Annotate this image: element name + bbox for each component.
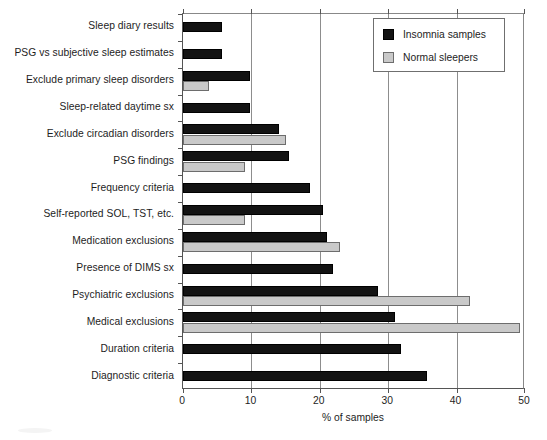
category-tick xyxy=(178,336,183,337)
category-label: Sleep-related daytime sx xyxy=(59,101,174,112)
bar-insomnia-samples xyxy=(183,232,327,242)
category-label: Diagnostic criteria xyxy=(91,370,174,381)
axis-tick xyxy=(524,388,525,393)
bar-insomnia-samples xyxy=(183,71,250,81)
bar-insomnia-samples xyxy=(183,286,378,296)
bar-insomnia-samples xyxy=(183,151,289,161)
axis-tick xyxy=(320,388,321,393)
bar-chart: Sleep diary resultsPSG vs subjective sle… xyxy=(0,0,547,440)
bar-insomnia-samples xyxy=(183,183,310,193)
legend-label-insomnia-samples: Insomnia samples xyxy=(403,29,486,40)
category-label: Psychiatric exclusions xyxy=(72,289,174,300)
axis-tick xyxy=(183,388,184,393)
axis-tick xyxy=(320,9,321,14)
bar-insomnia-samples xyxy=(183,124,279,134)
scan-artifact xyxy=(18,428,52,433)
category-label: Medication exclusions xyxy=(72,235,174,246)
axis-tick xyxy=(183,9,184,14)
bar-normal-sleepers xyxy=(183,323,520,333)
category-label: PSG findings xyxy=(113,155,174,166)
category-label: Duration criteria xyxy=(100,343,174,354)
x-tick-label: 50 xyxy=(518,395,529,406)
category-tick xyxy=(178,309,183,310)
category-tick xyxy=(178,363,183,364)
chart-legend: Insomnia samples Normal sleepers xyxy=(373,18,505,72)
x-tick-label: 20 xyxy=(313,395,324,406)
category-tick xyxy=(178,229,183,230)
x-axis-title: % of samples xyxy=(182,412,524,423)
x-tick-label: 10 xyxy=(245,395,256,406)
bar-normal-sleepers xyxy=(183,81,209,91)
category-label: Presence of DIMS sx xyxy=(76,262,174,273)
bar-insomnia-samples xyxy=(183,22,222,32)
legend-entry-normal-sleepers: Normal sleepers xyxy=(383,50,478,64)
category-tick xyxy=(178,175,183,176)
axis-tick xyxy=(251,388,252,393)
category-tick xyxy=(178,121,183,122)
bar-normal-sleepers xyxy=(183,162,245,172)
bar-normal-sleepers xyxy=(183,215,245,225)
category-label: Self-reported SOL, TST, etc. xyxy=(43,208,174,219)
axis-tick xyxy=(457,388,458,393)
bar-insomnia-samples xyxy=(183,312,395,322)
bar-normal-sleepers xyxy=(183,242,340,252)
axis-tick xyxy=(251,9,252,14)
category-tick xyxy=(178,256,183,257)
legend-label-normal-sleepers: Normal sleepers xyxy=(403,52,478,63)
category-label: Exclude circadian disorders xyxy=(47,128,174,139)
x-tick-label: 0 xyxy=(179,395,185,406)
bar-insomnia-samples xyxy=(183,103,250,113)
category-label: Frequency criteria xyxy=(91,182,174,193)
x-tick-label: 30 xyxy=(381,395,392,406)
gray-square-swatch-icon xyxy=(383,52,394,63)
category-tick xyxy=(178,202,183,203)
category-label: Exclude primary sleep disorders xyxy=(26,74,174,85)
bar-insomnia-samples xyxy=(183,49,222,59)
category-label: Medical exclusions xyxy=(87,316,174,327)
axis-tick xyxy=(388,388,389,393)
category-tick xyxy=(178,95,183,96)
bar-normal-sleepers xyxy=(183,135,286,145)
category-tick xyxy=(178,148,183,149)
category-label: Sleep diary results xyxy=(88,20,174,31)
bar-insomnia-samples xyxy=(183,264,333,274)
bar-insomnia-samples xyxy=(183,205,323,215)
category-tick xyxy=(178,68,183,69)
axis-tick xyxy=(457,9,458,14)
category-tick xyxy=(178,283,183,284)
legend-entry-insomnia-samples: Insomnia samples xyxy=(383,27,486,41)
category-label: PSG vs subjective sleep estimates xyxy=(14,47,174,58)
x-tick-label: 40 xyxy=(450,395,461,406)
axis-tick xyxy=(524,9,525,14)
bar-insomnia-samples xyxy=(183,371,427,381)
axis-tick xyxy=(388,9,389,14)
category-axis-labels: Sleep diary resultsPSG vs subjective sle… xyxy=(0,13,178,389)
category-tick xyxy=(178,14,183,15)
category-tick xyxy=(178,41,183,42)
black-square-swatch-icon xyxy=(383,29,394,40)
bar-normal-sleepers xyxy=(183,296,470,306)
bar-insomnia-samples xyxy=(183,344,401,354)
